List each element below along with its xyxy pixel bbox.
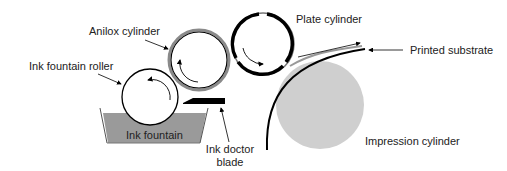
- label-printed-substrate: Printed substrate: [410, 44, 493, 57]
- plate-cylinder: [232, 13, 294, 75]
- label-plate-cylinder: Plate cylinder: [296, 13, 362, 26]
- label-ink-doctor-blade-1: Ink doctor: [204, 143, 256, 156]
- feed-direction-arrow-icon: [298, 43, 360, 57]
- anilox-cylinder: [169, 30, 229, 90]
- label-ink-fountain: Ink fountain: [126, 129, 183, 142]
- label-ink-doctor-blade-2: blade: [204, 156, 256, 169]
- ink-doctor-blade: [183, 98, 225, 104]
- impression-cylinder: [276, 61, 364, 149]
- flexo-printing-diagram: Anilox cylinder Ink fountain roller Ink …: [0, 0, 507, 171]
- label-impression-cylinder: Impression cylinder: [365, 135, 460, 148]
- rotation-arrow-icon: [243, 48, 263, 64]
- label-ink-fountain-roller: Ink fountain roller: [29, 60, 113, 73]
- label-anilox-cylinder: Anilox cylinder: [89, 25, 160, 38]
- ink-fountain-roller: [122, 69, 178, 125]
